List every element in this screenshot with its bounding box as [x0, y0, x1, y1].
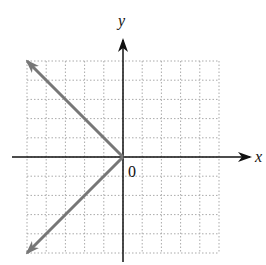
y-axis-label: y	[116, 12, 126, 30]
coordinate-plane: x y 0	[0, 0, 266, 265]
origin-label: 0	[128, 163, 136, 180]
graph-segment	[27, 157, 123, 253]
x-axis-label: x	[254, 148, 262, 165]
graph-segment	[27, 61, 123, 157]
